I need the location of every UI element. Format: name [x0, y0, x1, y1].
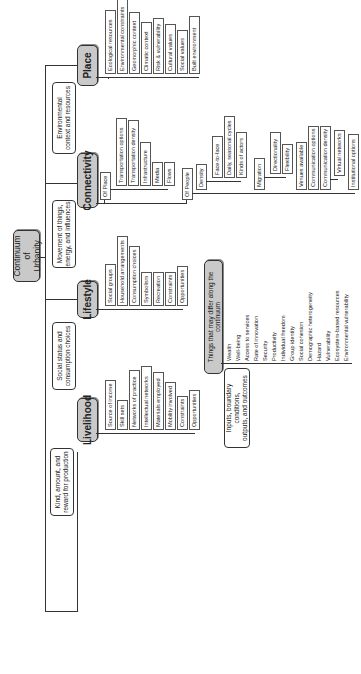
leaf-label: Symbolism [143, 276, 149, 303]
migration-bus [264, 177, 286, 178]
callout-line: outputs, and outcomes [241, 375, 249, 441]
differ-item-social-cohesion: Social cohesion [298, 322, 305, 361]
differ-item-wealth: Wealth [226, 344, 233, 361]
leaf-risk-vulnerability: Risk & vulnerability [153, 18, 164, 74]
leaf-label: Geomorphic context [131, 21, 137, 71]
leaf-recreation: Recreation [153, 272, 164, 306]
leaf-constraints-livelihood: Constraints [177, 396, 188, 430]
leaf-label: Communication options [310, 129, 316, 187]
leaf-media: Media [152, 162, 163, 186]
leaf-label: Intellectual networks [143, 376, 149, 427]
leaf-label: Environmental constraints [119, 7, 125, 71]
leaf-label: Constraints [167, 275, 173, 303]
differ-item-group-identity: Group identity [289, 326, 296, 361]
leaf-label: Opportunities [179, 270, 185, 303]
leaf-infrastructure: Infrastructure [140, 142, 151, 186]
differ-item-well-being: Well-being [235, 335, 242, 361]
root-label-line1: Continuum of [12, 231, 32, 281]
leaf-label: Social groups [107, 269, 113, 303]
leaf-label: Transportation options [118, 128, 124, 183]
node-migration: Migration [254, 158, 265, 190]
leaf-communication-options: Communication options [308, 126, 319, 190]
leaf-materials-employed: Materials employed [153, 372, 164, 430]
leaf-flows: Flows [164, 162, 175, 186]
leaf-consumption-choices: Consumption choices [129, 246, 140, 306]
callout-line: consumption choices [64, 326, 72, 387]
leaf-label: Migration [256, 164, 262, 187]
branch-lifestyle: Lifestyle [77, 281, 98, 318]
leaf-label: Density [198, 168, 204, 187]
leaf-label: Institutional options [350, 139, 356, 187]
leaf-label: Social values [179, 38, 185, 71]
connectivity-callout: Movement of things, energy, and influenc… [52, 200, 76, 268]
branch-place-label: Place [82, 52, 93, 78]
leaf-label: Venues available [298, 145, 304, 187]
trunk-line [45, 65, 46, 612]
differ-item-vulnerability: Vulnerability [325, 331, 332, 361]
leaf-symbolism: Symbolism [141, 272, 152, 306]
livelihood-callout: Kind, amount, and reward for production [50, 448, 74, 516]
leaf-label: Household arrangements [119, 240, 125, 303]
leaf-label: Climatic context [143, 32, 149, 71]
branch-lifestyle-label: Lifestyle [82, 279, 93, 320]
leaf-label: Built environment [191, 28, 197, 71]
callout-line: reward for production [62, 451, 70, 512]
place-items-bus [108, 77, 199, 78]
lifestyle-callout: Social status and consumption choices [52, 322, 76, 390]
branch-livelihood-label: Livelihood [82, 395, 93, 445]
branch-place: Place [77, 45, 98, 86]
leaf-transportation-density: Transportation density [128, 120, 139, 186]
leaf-label: Transportation density [130, 128, 136, 183]
leaf-label: Cultural values [167, 34, 173, 71]
leaf-label: Networks of practice [131, 376, 137, 427]
leaf-virtual-networks: Virtual networks [334, 130, 345, 176]
leaf-transportation-options: Transportation options [116, 118, 127, 186]
leaf-flexibility: Flexibility [282, 144, 293, 174]
leaf-label: Directionality [272, 139, 278, 171]
callout-line: Social status and [56, 331, 64, 381]
leaf-label: Of People [184, 172, 190, 197]
differ-label: Things that may differ along the continu… [207, 261, 221, 373]
leaf-kinds-of-actors: Kinds of actors [236, 132, 247, 178]
differ-item-access-to-services: Access to services [244, 315, 251, 361]
leaf-household-arrangements: Household arrangements [117, 236, 128, 306]
leaf-environmental-constraints: Environmental constraints [117, 0, 128, 74]
node-of-people: Of People [182, 168, 193, 200]
leaf-networks-of-practice: Networks of practice [129, 370, 140, 430]
branch-connectivity: Connectivity [77, 153, 98, 208]
urbanity-mindmap: Continuum of Urbanity Place Environmenta… [0, 0, 361, 674]
differ-item-productivity: Productivity [271, 332, 278, 361]
place-connector [45, 65, 78, 66]
root-node-continuum-of-urbanity: Continuum of Urbanity [13, 230, 40, 282]
leaf-social-values: Social values [177, 30, 188, 74]
of-people-bus [192, 193, 355, 194]
leaf-face-to-face: Face-to-face [212, 136, 223, 178]
leaf-label: Virtual networks [336, 133, 342, 173]
differ-item-individual-freedom: Individual freedom [280, 315, 287, 361]
leaf-label: Flexibility [284, 148, 290, 171]
leaf-label: Consumption choices [131, 250, 137, 303]
leaf-ecological-resources: Ecological resources [105, 10, 116, 74]
leaf-label: Ecological resources [107, 19, 113, 71]
leaf-label: Daily, seasonal cycles [226, 120, 232, 175]
leaf-label: Materials employed [155, 378, 161, 427]
virtual-connector [330, 179, 338, 180]
leaf-daily-seasonal-cycles: Daily, seasonal cycles [224, 116, 235, 178]
leaf-venues-available: Venues available [296, 142, 307, 190]
leaf-label: Mobility involved [167, 386, 173, 427]
node-of-place: Of Place [100, 172, 111, 200]
leaf-label: Communication density [322, 129, 328, 187]
place-callout: Environmental context and resources [52, 82, 76, 154]
leaf-intellectual-networks: Intellectual networks [141, 366, 152, 430]
leaf-label: Constraints [179, 399, 185, 427]
differ-item-hazard: Hazard [316, 343, 323, 361]
differ-bus [221, 363, 352, 364]
leaf-built-environment: Built environment [189, 16, 200, 74]
leaf-label: Recreation [155, 276, 161, 303]
lifestyle-bus [96, 309, 183, 310]
leaf-label: Media [154, 168, 160, 183]
of-place-connector [104, 200, 105, 204]
branch-connectivity-label: Connectivity [82, 150, 93, 210]
root-connector [38, 257, 45, 258]
leaf-climatic-context: Climatic context [141, 22, 152, 74]
